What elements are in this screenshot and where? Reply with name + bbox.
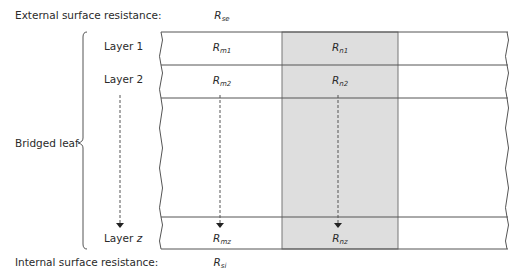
r-nz: Rnz (332, 232, 347, 246)
layer-z-label: Layer z (104, 232, 142, 244)
bridged-leaf-brace (78, 32, 87, 249)
diagram-lines (0, 0, 527, 274)
external-surface-label: External surface resistance: (15, 9, 161, 21)
r-n2: Rn2 (332, 74, 348, 88)
bridged-leaf-label: Bridged leaf (15, 137, 79, 149)
r-si: Rsi (214, 256, 227, 270)
r-se: Rse (214, 9, 229, 23)
r-n1: Rn1 (332, 41, 348, 55)
layer-2-label: Layer 2 (104, 73, 143, 85)
layer-1-label: Layer 1 (104, 40, 143, 52)
r-m1: Rm1 (213, 41, 232, 55)
internal-surface-label: Internal surface resistance: (15, 256, 158, 268)
r-mz: Rmz (213, 232, 231, 246)
r-m2: Rm2 (213, 74, 232, 88)
